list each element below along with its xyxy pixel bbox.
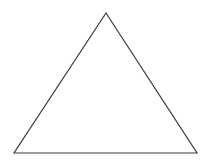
diagram-canvas: [0, 0, 206, 162]
triangle-shape: [14, 13, 197, 153]
triangle-figure: [0, 0, 206, 162]
